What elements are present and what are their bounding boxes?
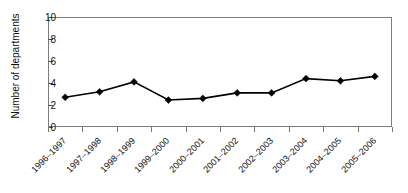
line-chart: Number of departments 0246810 1996–19971…: [0, 0, 408, 193]
data-point-marker: [131, 79, 138, 86]
x-tick-mark: [186, 127, 187, 132]
data-point-marker: [268, 90, 275, 97]
data-point-marker: [234, 90, 241, 97]
x-tick-mark: [48, 127, 49, 132]
data-point-marker: [303, 75, 310, 82]
x-tick-mark: [82, 127, 83, 132]
data-series: [48, 17, 392, 127]
y-axis-title: Number of departments: [9, 3, 23, 129]
data-point-marker: [96, 88, 103, 95]
data-point-marker: [371, 73, 378, 80]
x-tick-mark: [220, 127, 221, 132]
x-tick-mark: [151, 127, 152, 132]
x-tick-mark: [358, 127, 359, 132]
data-point-marker: [199, 95, 206, 102]
x-tick-mark: [254, 127, 255, 132]
data-point-marker: [62, 94, 69, 101]
x-tick-mark: [392, 127, 393, 132]
x-tick-mark: [289, 127, 290, 132]
x-tick-mark: [117, 127, 118, 132]
x-tick-mark: [323, 127, 324, 132]
data-point-marker: [165, 97, 172, 104]
series-line: [65, 76, 375, 100]
data-point-marker: [337, 77, 344, 84]
